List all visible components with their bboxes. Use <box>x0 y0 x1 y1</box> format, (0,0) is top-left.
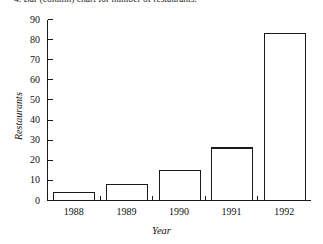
y-tick-label-10: 10 <box>14 175 40 185</box>
bar-1991 <box>212 148 253 200</box>
x-tick-label-1991: 1991 <box>207 207 257 217</box>
y-tick-label-70: 70 <box>14 55 40 65</box>
y-tick-label-0: 0 <box>14 196 40 206</box>
y-axis-title: Restaurants <box>13 92 24 140</box>
y-tick-label-80: 80 <box>14 35 40 45</box>
x-axis-title: Year <box>0 225 323 236</box>
bar-1988 <box>54 192 95 200</box>
y-tick-label-60: 60 <box>14 75 40 85</box>
x-tick-label-1989: 1989 <box>101 207 151 217</box>
x-tick-label-1992: 1992 <box>259 207 309 217</box>
chart-bars <box>54 34 306 201</box>
bar-chart: 0102030405060708090 19881989199019911992… <box>0 0 323 244</box>
y-tick-label-90: 90 <box>14 15 40 25</box>
bar-1990 <box>160 170 201 200</box>
bar-1992 <box>265 34 306 201</box>
bar-1989 <box>107 184 148 200</box>
y-tick-label-20: 20 <box>14 155 40 165</box>
x-tick-label-1988: 1988 <box>49 207 99 217</box>
x-tick-label-1990: 1990 <box>154 207 204 217</box>
